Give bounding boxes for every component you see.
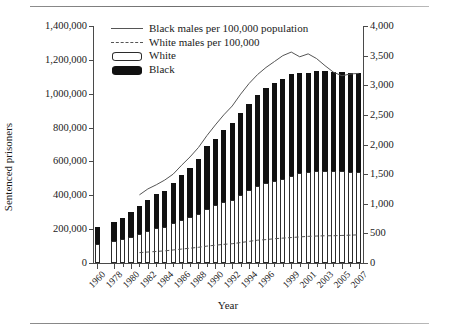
x-axis-tick-major [325, 263, 326, 269]
x-axis-tick-major [165, 263, 166, 269]
y-axis-right-tick [364, 174, 368, 175]
x-axis-tick-major [342, 263, 343, 269]
x-axis-tick-major [232, 263, 233, 269]
x-axis-tick-minor [139, 263, 140, 267]
legend-item-white-males-rate: White males per 100,000 [110, 36, 308, 50]
figure-chart-sentenced-prisoners: Sentenced prisoners Sentenced prisoners … [0, 0, 451, 333]
y-axis-left-tick-label: 1,000,000 [45, 88, 87, 99]
y-axis-left-title: Sentenced prisoners [2, 122, 14, 210]
x-axis-tick-major [97, 263, 98, 269]
x-axis-tick-minor [283, 263, 284, 267]
bottom-divider-rule [30, 323, 429, 324]
x-axis-tick-major [114, 263, 115, 269]
y-axis-right-tick-label: 1,500 [370, 169, 394, 180]
y-axis-left-tick-label: 0 [82, 258, 87, 269]
y-axis-right-tick [364, 115, 368, 116]
x-axis-tick-major [308, 263, 309, 269]
legend-item-white-bars: White [110, 49, 308, 63]
y-axis-left-tick-label: 200,000 [53, 224, 87, 235]
x-axis-tick-major [249, 263, 250, 269]
y-axis-left-tick-label: 600,000 [53, 156, 87, 167]
x-axis-tick-major [182, 263, 183, 269]
chart-legend: Black males per 100,000 population White… [110, 22, 308, 76]
y-axis-right-tick [364, 85, 368, 86]
line-white-males [139, 235, 358, 253]
x-axis-tick-minor [350, 263, 351, 267]
y-axis-right-tick [364, 145, 368, 146]
y-axis-right-tick-label: 2,000 [370, 139, 394, 150]
x-axis-tick-label: 1996 [257, 270, 277, 290]
y-axis-right-tick [364, 204, 368, 205]
x-axis-tick-minor [241, 263, 242, 267]
y-axis-left-tick-label: 1,400,000 [45, 21, 87, 32]
y-axis-right-tick [364, 233, 368, 234]
x-axis-tick-major [215, 263, 216, 269]
top-divider-rule [30, 6, 429, 7]
x-axis-tick-minor [258, 263, 259, 267]
y-axis-right-tick-label: 3,000 [370, 80, 394, 91]
x-axis-tick-minor [173, 263, 174, 267]
y-axis-right-tick-label: 500 [370, 228, 386, 239]
black-swatch-icon [110, 64, 144, 75]
x-axis-tick-minor [123, 263, 124, 267]
x-axis-tick-major [359, 263, 360, 269]
legend-label: Black males per 100,000 population [149, 22, 308, 36]
legend-item-black-males-rate: Black males per 100,000 population [110, 22, 308, 36]
legend-item-black-bars: Black [110, 63, 308, 77]
solid-line-icon [110, 23, 144, 34]
x-axis-tick-major [266, 263, 267, 269]
x-axis-tick-minor [317, 263, 318, 267]
x-axis-tick-major [198, 263, 199, 269]
y-axis-right-tick [364, 56, 368, 57]
dashed-line-icon [110, 37, 144, 48]
x-axis-tick-major [131, 263, 132, 269]
y-axis-right-tick [364, 26, 368, 27]
y-axis-right-tick-label: 3,500 [370, 50, 394, 61]
legend-label: Black [149, 63, 175, 77]
x-axis-tick-major [291, 263, 292, 269]
y-axis-right-tick-label: 2,500 [370, 110, 394, 121]
x-axis-tick-minor [224, 263, 225, 267]
x-axis-tick-minor [274, 263, 275, 267]
y-axis-right-tick-label: 4,000 [370, 21, 394, 32]
y-axis-left-tick-label: 800,000 [53, 122, 87, 133]
white-swatch-icon [110, 50, 144, 61]
x-axis-tick-minor [156, 263, 157, 267]
x-axis-tick-major [148, 263, 149, 269]
y-axis-right-tick-label: 1,000 [370, 199, 394, 210]
x-axis-title: Year [93, 299, 363, 311]
y-axis-left-tick [89, 263, 93, 264]
x-axis-tick-label: 2007 [349, 270, 369, 290]
legend-label: White males per 100,000 [149, 36, 260, 50]
y-axis-right-tick-label: 0 [370, 258, 375, 269]
x-axis-tick-minor [190, 263, 191, 267]
x-axis-tick-minor [333, 263, 334, 267]
x-axis-tick-minor [207, 263, 208, 267]
x-axis-tick-label: 1984 [155, 270, 175, 290]
legend-label: White [149, 49, 176, 63]
y-axis-left-tick-label: 400,000 [53, 190, 87, 201]
x-axis-tick-minor [300, 263, 301, 267]
y-axis-left-tick-label: 1,200,000 [45, 55, 87, 66]
y-axis-right-tick [364, 263, 368, 264]
x-axis-line [93, 263, 364, 264]
